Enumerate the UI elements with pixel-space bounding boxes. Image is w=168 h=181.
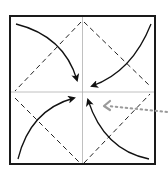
origami-blintz-fold-diagram: [0, 0, 168, 181]
